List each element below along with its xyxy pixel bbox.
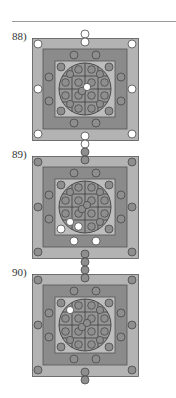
marker-mid_t2 — [92, 51, 100, 59]
marker-outer_top1 — [81, 148, 89, 156]
concentric-diagram — [32, 148, 140, 260]
marker-grid_02 — [88, 302, 96, 310]
marker-outer_bl — [34, 248, 42, 256]
marker-outer_tl — [34, 40, 42, 48]
marker-inner_rt — [117, 191, 125, 199]
marker-inner_bl — [57, 225, 65, 233]
marker-grid_02 — [88, 66, 96, 74]
marker-grid_01 — [75, 66, 83, 74]
marker-grid_10 — [62, 315, 70, 323]
marker-outer_bot1 — [81, 132, 89, 140]
marker-grid_31 — [75, 223, 83, 231]
figure-label: 89) — [12, 148, 27, 160]
concentric-diagram — [32, 30, 140, 142]
marker-grid_31 — [75, 105, 83, 113]
marker-grid_22 — [88, 328, 96, 336]
marker-inner_rb — [117, 333, 125, 341]
marker-grid_01 — [75, 184, 83, 192]
marker-grid_22 — [88, 92, 96, 100]
marker-outer_bot1 — [81, 250, 89, 258]
marker-outer_top2 — [81, 274, 89, 282]
marker-grid_11 — [75, 79, 83, 87]
marker-grid_13 — [101, 79, 109, 87]
marker-outer_top2 — [81, 38, 89, 46]
marker-mid_t1 — [70, 169, 78, 177]
marker-inner_br — [105, 343, 113, 351]
marker-inner_tl — [57, 181, 65, 189]
top-rule — [12, 21, 176, 22]
marker-inner_br — [105, 107, 113, 115]
marker-grid_33 — [96, 100, 103, 107]
marker-outer_top2 — [81, 156, 89, 164]
marker-inner_bl — [57, 343, 65, 351]
marker-grid_03 — [96, 188, 103, 195]
marker-grid_30 — [66, 100, 73, 107]
marker-mid_t1 — [70, 287, 78, 295]
marker-mid_b2 — [92, 119, 100, 127]
marker-mid_b1 — [70, 237, 78, 245]
marker-grid_13 — [101, 197, 109, 205]
marker-grid_22 — [88, 210, 96, 218]
marker-outer_br — [128, 130, 136, 138]
marker-inner_lb — [45, 333, 53, 341]
marker-inner_tr — [105, 181, 113, 189]
marker-outer_mr — [128, 321, 136, 329]
marker-inner_lb — [45, 215, 53, 223]
marker-inner_rb — [117, 97, 125, 105]
marker-inner_tr — [105, 299, 113, 307]
marker-outer_bot2 — [81, 140, 89, 148]
marker-outer_br — [128, 248, 136, 256]
marker-grid_20 — [62, 210, 70, 218]
marker-grid_20 — [62, 328, 70, 336]
marker-grid_00 — [66, 70, 73, 77]
marker-grid_33 — [96, 336, 103, 343]
marker-inner_lb — [45, 97, 53, 105]
marker-grid_11 — [75, 197, 83, 205]
marker-outer_bl — [34, 130, 42, 138]
marker-grid_33 — [96, 218, 103, 225]
marker-mid_b2 — [92, 355, 100, 363]
marker-grid_23 — [101, 92, 109, 100]
marker-inner_tr — [105, 63, 113, 71]
marker-mid_t2 — [92, 169, 100, 177]
marker-grid_32 — [88, 223, 96, 231]
marker-center_a — [83, 201, 90, 208]
marker-outer_bl — [34, 366, 42, 374]
marker-grid_23 — [101, 210, 109, 218]
marker-inner_rb — [117, 215, 125, 223]
marker-outer_tl — [34, 276, 42, 284]
marker-outer_tr — [128, 276, 136, 284]
marker-outer_mr — [128, 203, 136, 211]
marker-mid_b1 — [70, 119, 78, 127]
figure-label: 88) — [12, 30, 27, 42]
marker-grid_32 — [88, 105, 96, 113]
marker-inner_tl — [57, 63, 65, 71]
marker-outer_ml — [34, 321, 42, 329]
marker-grid_10 — [62, 197, 70, 205]
marker-outer_top1 — [81, 266, 89, 274]
marker-grid_10 — [62, 79, 70, 87]
marker-center_a — [83, 319, 90, 326]
marker-outer_ml — [34, 85, 42, 93]
marker-grid_00 — [66, 306, 73, 313]
marker-outer_br — [128, 366, 136, 374]
marker-grid_23 — [101, 328, 109, 336]
marker-grid_00 — [66, 188, 73, 195]
marker-outer_bot1 — [81, 368, 89, 376]
marker-outer_tr — [128, 40, 136, 48]
marker-grid_30 — [66, 218, 73, 225]
marker-inner_rt — [117, 309, 125, 317]
marker-inner_lt — [45, 191, 53, 199]
marker-mid_t1 — [70, 51, 78, 59]
marker-outer_bot2 — [81, 258, 89, 266]
marker-mid_b1 — [70, 355, 78, 363]
marker-outer_tr — [128, 158, 136, 166]
marker-grid_02 — [88, 184, 96, 192]
marker-grid_30 — [66, 336, 73, 343]
marker-grid_03 — [96, 306, 103, 313]
marker-grid_01 — [75, 302, 83, 310]
marker-grid_20 — [62, 92, 70, 100]
marker-mid_t2 — [92, 287, 100, 295]
marker-grid_31 — [75, 341, 83, 349]
marker-grid_03 — [96, 70, 103, 77]
